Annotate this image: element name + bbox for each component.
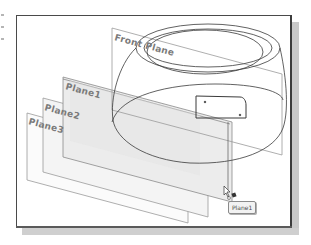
model-scene[interactable]: Front Plane Plane1 Plane2 Plane3 bbox=[0, 0, 311, 245]
cursor-tooltip: Plane1 bbox=[228, 201, 256, 214]
